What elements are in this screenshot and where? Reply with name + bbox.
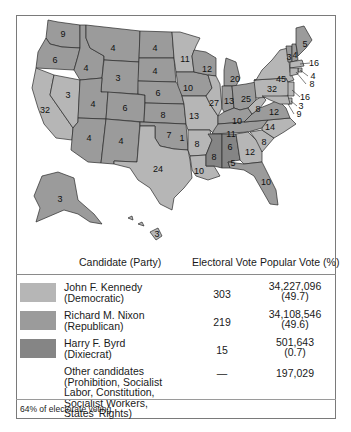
label-GA: 12 [245,147,255,157]
party-label: (Dixiecrat) [64,349,125,360]
electoral-vote: 219 [192,317,252,328]
label-AL: 6 [227,142,232,152]
label-NV: 3 [65,90,70,100]
candidate-name: Richard M. Nixon (Republican) [64,310,145,331]
popular-count: 197,029 [256,368,334,379]
popular-vote: 501,643 (0.7) [256,338,334,357]
label-UT: 4 [90,99,95,109]
table-row-others: Other candidates (Prohibition, Socialist… [16,366,336,426]
popular-percent: (49.6) [256,320,334,330]
label-WY: 3 [115,73,120,83]
electoral-vote: 303 [192,289,252,300]
party-label: (Democratic) [64,293,142,304]
party-line: Labor, Constitution, [64,387,162,398]
label-MT: 4 [110,43,115,53]
label-AR: 8 [194,139,199,149]
state-AK [34,172,102,224]
header-electoral: Electoral Vote [192,256,257,268]
label-WA: 9 [60,29,65,39]
label-VA: 12 [269,107,279,117]
state-CT [290,68,298,76]
popular-vote: 197,029 [256,368,334,379]
map-svg: 9 6 32 3 4 4 3 4 6 4 4 4 4 6 8 7 1 24 11… [0,0,351,248]
candidate-label: Richard M. Nixon [64,310,145,321]
label-AK: 3 [57,194,62,204]
header-candidate: Candidate (Party) [79,256,161,268]
label-OH: 25 [241,94,251,104]
legend-swatch-kennedy [20,283,56,302]
label-WV: 8 [255,104,260,114]
table-row-byrd: Harry F. Byrd (Dixiecrat) 15 501,643 (0.… [16,336,336,364]
label-NY: 45 [276,74,286,84]
label-MS: 8 [211,152,216,162]
label-CT: 8 [309,79,314,89]
label-VT: 3 [286,52,291,62]
label-PA: 32 [267,84,277,94]
candidate-name: John F. Kennedy (Democratic) [64,282,142,303]
label-TN: 11 [226,129,235,139]
label-NE: 6 [155,88,160,98]
footer-divider [16,399,336,400]
electoral-vote: — [192,368,252,379]
label-LA: 10 [194,166,204,176]
popular-vote: 34,108,546 (49.6) [256,310,334,329]
label-SD: 4 [152,66,157,76]
party-label: (Republican) [64,321,145,332]
electoral-vote: 15 [192,345,252,356]
label-KS: 8 [160,110,165,120]
us-electoral-map: 9 6 32 3 4 4 3 4 6 4 4 4 4 6 8 7 1 24 11… [0,0,351,248]
label-ID: 4 [83,63,88,73]
legend-swatch-nixon [20,311,56,330]
label-IA: 10 [183,83,193,93]
table-row-nixon: Richard M. Nixon (Republican) 219 34,108… [16,308,336,336]
label-CA: 32 [40,105,50,115]
popular-vote: 34,227,096 (49.7) [256,282,334,301]
label-SC: 8 [261,137,266,147]
candidate-label: Other candidates [64,366,162,377]
label-OK: 7 [166,130,171,140]
label-MO: 13 [189,111,199,121]
state-NJ [288,82,294,96]
label-NM: 4 [118,136,123,146]
label-FL: 10 [261,177,271,187]
label-OR: 6 [52,55,57,65]
candidate-label: John F. Kennedy [64,282,142,293]
popular-percent: (0.7) [256,348,334,358]
label-NC: 14 [265,122,275,132]
label-IL: 27 [209,98,219,108]
label-HI: 3 [154,229,159,239]
label-IN: 13 [224,96,234,106]
header-popular: Popular Vote (%) [260,256,339,268]
candidate-name: Harry F. Byrd (Dixiecrat) [64,338,125,359]
label-NH: 4 [292,50,297,60]
label-OK-byrd: 1 [179,133,184,143]
table-header: Candidate (Party) Electoral Vote Popular… [16,250,336,275]
candidate-label: Harry F. Byrd [64,338,125,349]
label-ND: 4 [152,43,157,53]
label-CO: 6 [122,103,127,113]
label-MD: 9 [296,109,301,119]
label-MA: 16 [309,58,319,68]
state-IA [176,72,212,96]
turnout-note: 64% of electorate voting [20,404,111,414]
label-MI: 20 [230,74,240,84]
label-MN: 11 [180,54,189,64]
label-WI: 12 [202,64,212,74]
label-KY: 10 [232,116,242,126]
label-ME: 5 [302,39,307,49]
table-row-kennedy: John F. Kennedy (Democratic) 303 34,227,… [16,280,336,308]
legend-swatch-byrd [20,339,56,358]
state-NE [138,81,184,104]
label-AZ: 4 [86,133,91,143]
popular-percent: (49.7) [256,292,334,302]
label-AL-kennedy: 5 [230,158,235,168]
label-TX: 24 [153,164,163,174]
